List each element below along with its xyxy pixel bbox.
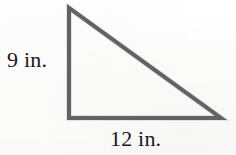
triangle-outline-softening	[69, 8, 221, 118]
vertical-leg-dimension-label: 9 in.	[7, 49, 47, 71]
horizontal-leg-dimension-label: 12 in.	[110, 128, 161, 150]
geometry-figure: 9 in. 12 in.	[0, 0, 236, 155]
